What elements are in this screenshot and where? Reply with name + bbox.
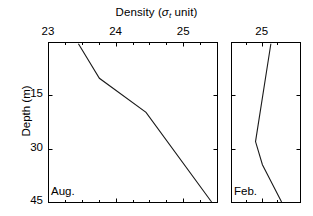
y-tick-label-30: 30 (10, 141, 43, 153)
x-tick-label-aug-25: 25 (163, 25, 203, 37)
panel-label-feb: Feb. (234, 185, 257, 197)
y-tick-label-15: 15 (10, 87, 43, 99)
panel-label-aug: Aug. (51, 185, 75, 197)
panel-feb (232, 43, 301, 203)
panel-aug (49, 43, 218, 203)
y-tick-label-45: 45 (10, 194, 43, 206)
x-tick-label-aug-23: 23 (28, 25, 68, 37)
data-line-feb (256, 44, 282, 202)
x-tick-label-feb-25: 25 (242, 25, 282, 37)
x-tick-label-aug-24: 24 (96, 25, 136, 37)
density-depth-figure: Density (σt unit) Depth (m) 232425153045… (0, 0, 313, 216)
data-line-aug (78, 44, 211, 202)
